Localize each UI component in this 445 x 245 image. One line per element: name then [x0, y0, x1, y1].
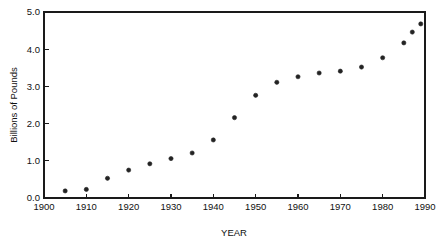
- x-tick-label: 1980: [372, 201, 393, 212]
- x-tick-label: 1930: [160, 201, 181, 212]
- data-point-marker: [127, 168, 131, 172]
- data-point-marker: [359, 65, 363, 69]
- data-point-marker: [190, 151, 194, 155]
- y-tick-label: 1.0: [27, 155, 40, 166]
- data-point-marker: [232, 116, 236, 120]
- data-point-marker: [410, 30, 414, 34]
- data-point-marker: [402, 41, 406, 45]
- data-point-marker: [275, 80, 279, 84]
- x-axis-ticks: 1900191019201930194019501960197019801990: [33, 194, 435, 213]
- y-tick-label: 5.0: [27, 6, 40, 17]
- y-tick-label: 0.0: [27, 192, 40, 203]
- y-tick-label: 2.0: [27, 118, 40, 129]
- data-point-marker: [381, 56, 385, 60]
- plot-frame: [44, 12, 425, 198]
- data-point-marker: [169, 156, 173, 160]
- data-point-marker: [84, 187, 88, 191]
- x-tick-label: 1960: [287, 201, 308, 212]
- data-point-marker: [211, 138, 215, 142]
- x-tick-label: 1940: [203, 201, 224, 212]
- plot-border: [44, 12, 425, 198]
- y-tick-label: 3.0: [27, 81, 40, 92]
- data-point-marker: [419, 22, 423, 26]
- y-axis-ticks: 0.01.02.03.04.05.0: [27, 6, 49, 203]
- x-axis-title: YEAR: [221, 227, 247, 238]
- data-point-marker: [148, 162, 152, 166]
- x-tick-label: 1990: [414, 201, 435, 212]
- data-point-marker: [296, 75, 300, 79]
- x-tick-label: 1910: [76, 201, 97, 212]
- data-point-marker: [317, 71, 321, 75]
- scatter-plot-figure: 1900191019201930194019501960197019801990…: [0, 0, 445, 245]
- chart-screenshot: 1900191019201930194019501960197019801990…: [0, 0, 445, 245]
- data-point-marker: [338, 69, 342, 73]
- data-point-marker: [105, 176, 109, 180]
- x-tick-label: 1950: [245, 201, 266, 212]
- y-axis-title: Billions of Pounds: [8, 67, 19, 143]
- data-points: [63, 22, 423, 193]
- x-tick-label: 1920: [118, 201, 139, 212]
- data-point-marker: [63, 189, 67, 193]
- data-point-marker: [254, 93, 258, 97]
- y-tick-label: 4.0: [27, 44, 40, 55]
- x-tick-label: 1970: [330, 201, 351, 212]
